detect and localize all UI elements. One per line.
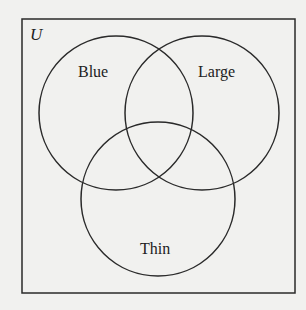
set-blue-label: Blue bbox=[78, 63, 108, 80]
set-blue-circle bbox=[39, 36, 193, 190]
venn-diagram: U Blue Large Thin bbox=[0, 0, 306, 310]
set-large-label: Large bbox=[198, 63, 235, 81]
set-thin-label: Thin bbox=[140, 240, 170, 257]
set-large-circle bbox=[125, 36, 279, 190]
universe-label: U bbox=[30, 25, 44, 44]
